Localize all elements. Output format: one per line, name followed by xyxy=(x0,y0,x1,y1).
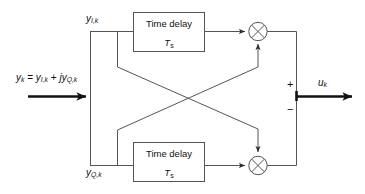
summing-bus xyxy=(267,32,296,166)
diagram-canvas: yk = yI,k + jyQ,k yI,k yQ,k Time delay T… xyxy=(0,0,365,194)
output-label: uk xyxy=(318,78,327,89)
input-eq-plus: + xyxy=(48,72,59,83)
time-delay-upper-label: Time delay Ts xyxy=(133,19,205,50)
delay-to-multiplier-lines xyxy=(205,32,246,166)
summing-minus-sign: − xyxy=(287,104,293,115)
branch-label-inphase-sub: I,k xyxy=(91,17,98,24)
time-delay-lower-symbol-line: Ts xyxy=(133,162,205,180)
time-delay-lower-symbol-sub: s xyxy=(170,171,174,178)
input-eq-equals: = xyxy=(24,72,35,83)
time-delay-lower-label: Time delay Ts xyxy=(133,149,205,180)
multiplier-lower xyxy=(249,156,267,174)
multiplier-upper xyxy=(249,22,267,40)
time-delay-upper-symbol-sub: s xyxy=(170,41,174,48)
input-eq-yi-sub: I,k xyxy=(41,76,48,83)
time-delay-lower-title: Time delay xyxy=(133,149,205,160)
branch-label-inphase: yI,k xyxy=(86,14,98,25)
input-equation: yk = yI,k + jyQ,k xyxy=(16,73,77,84)
output-label-sub: k xyxy=(324,81,327,88)
branch-label-quadrature-sub: Q,k xyxy=(91,171,102,178)
input-eq-yq-sub: Q,k xyxy=(67,76,78,83)
time-delay-upper-title: Time delay xyxy=(133,19,205,30)
branch-label-quadrature: yQ,k xyxy=(86,168,102,179)
input-split-bus xyxy=(90,31,133,166)
time-delay-upper-symbol-line: Ts xyxy=(133,32,205,50)
summing-plus-sign: + xyxy=(287,79,293,90)
